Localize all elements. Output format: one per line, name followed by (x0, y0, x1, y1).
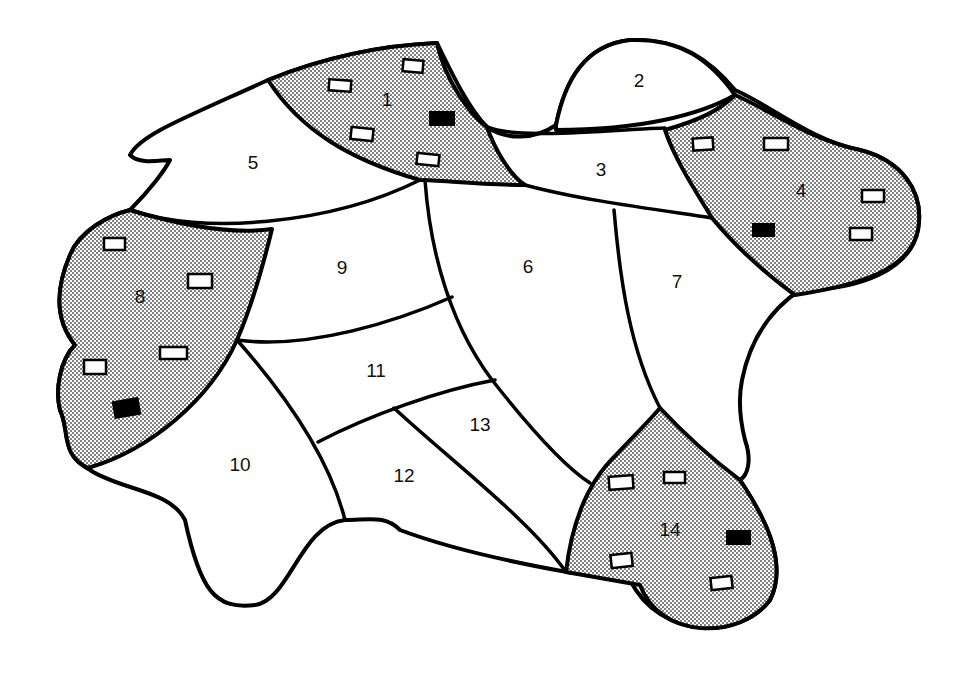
house-icon (104, 238, 125, 250)
house-icon (350, 127, 373, 141)
house-icon (160, 347, 187, 359)
dark-house-icon (753, 224, 774, 236)
house-icon (329, 79, 352, 92)
house-icon (710, 576, 732, 590)
house-icon (862, 190, 884, 202)
house-icon (416, 153, 439, 166)
house-icon (610, 553, 632, 568)
dark-house-icon (113, 398, 140, 418)
region-label-1: 1 (382, 89, 393, 110)
region-label-4: 4 (796, 180, 807, 201)
house-icon (84, 360, 106, 374)
house-icon (850, 228, 872, 240)
dark-house-icon (727, 531, 750, 544)
house-icon (403, 59, 424, 73)
region-label-10: 10 (229, 454, 250, 475)
region-label-5: 5 (248, 152, 259, 173)
region-label-7: 7 (672, 271, 683, 292)
house-icon (188, 274, 212, 288)
house-icon (764, 138, 788, 150)
house-icon (664, 472, 685, 483)
region-label-11: 11 (366, 360, 386, 381)
region-label-9: 9 (337, 257, 348, 278)
region-label-3: 3 (596, 159, 607, 180)
dark-house-icon (430, 112, 454, 125)
region-label-6: 6 (523, 256, 534, 277)
region-map: 1 2 3 4 5 6 7 8 9 10 11 12 13 14 (0, 0, 970, 681)
region-label-12: 12 (393, 465, 414, 486)
region-label-8: 8 (135, 286, 146, 307)
region-label-14: 14 (659, 519, 681, 540)
house-icon (609, 475, 634, 490)
region-label-2: 2 (634, 70, 645, 91)
house-icon (693, 137, 714, 150)
region-label-13: 13 (469, 414, 490, 435)
